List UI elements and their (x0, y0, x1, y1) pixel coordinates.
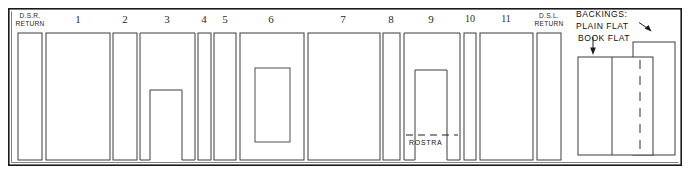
label-dsr-return: D.S.R. RETURN (8, 12, 52, 28)
label-dsl-return: D.S.L. RETURN (527, 12, 571, 28)
label-dsl-return-line1: D.S.L. (527, 12, 571, 20)
label-plain-flat: PLAIN FLAT (576, 21, 629, 31)
stage-setting-plan: D.S.R. RETURN D.S.L. RETURN 1 2 3 4 5 6 … (0, 0, 690, 180)
plain-flat-arrowhead-icon (645, 25, 652, 32)
label-rostra: ROSTRA (409, 139, 442, 146)
flat-number-7: 7 (333, 14, 353, 26)
flat-10 (464, 33, 476, 160)
flat-number-1: 1 (68, 14, 88, 26)
backing-book-flat (578, 57, 653, 155)
flat-4 (198, 33, 211, 160)
flat-number-8: 8 (381, 14, 401, 26)
flat-number-10: 10 (460, 14, 480, 25)
flat-dsl-return (537, 33, 561, 160)
flat-number-6: 6 (261, 14, 281, 26)
flat-2 (113, 33, 137, 160)
flat-dsr-return (18, 33, 42, 160)
flat-number-4: 4 (194, 14, 214, 26)
flat-number-11: 11 (496, 14, 516, 25)
label-dsr-return-line2: RETURN (8, 20, 52, 28)
label-backings-title: BACKINGS: (576, 9, 627, 19)
label-dsl-return-line2: RETURN (527, 20, 571, 28)
flat-1 (46, 33, 110, 160)
flat-number-5: 5 (215, 14, 235, 26)
flat-11 (480, 33, 533, 160)
flat-number-3: 3 (157, 14, 177, 26)
book-flat-arrowhead-icon (590, 48, 596, 56)
flat-number-2: 2 (115, 14, 135, 26)
flat-6-window-opening (255, 68, 290, 142)
flat-number-9: 9 (421, 14, 441, 26)
flat-3-archway (140, 33, 195, 160)
flat-5 (214, 33, 236, 160)
flat-8 (383, 33, 400, 160)
flat-7 (308, 33, 380, 160)
label-dsr-return-line1: D.S.R. (8, 12, 52, 20)
label-book-flat: BOOK FLAT (578, 33, 630, 43)
